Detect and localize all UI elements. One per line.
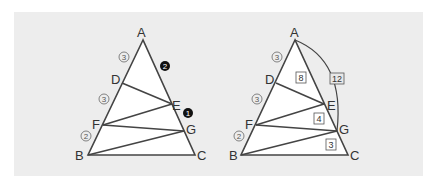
left-label-C: C xyxy=(197,148,206,163)
right-ratio-AD: 3 xyxy=(272,52,282,62)
right-label-E: E xyxy=(327,98,336,113)
right-label-G: G xyxy=(339,122,349,137)
svg-text:8: 8 xyxy=(298,73,303,83)
left-ratio-AD: 3 xyxy=(119,52,129,62)
right-label-C: C xyxy=(350,148,359,163)
right-box-AE: 8 xyxy=(296,72,306,83)
right-label-B: B xyxy=(229,148,238,163)
svg-text:3: 3 xyxy=(122,53,127,62)
right-box-EG: 4 xyxy=(314,113,324,124)
svg-text:3: 3 xyxy=(275,53,280,62)
left-label-F: F xyxy=(92,117,100,132)
right-label-D: D xyxy=(265,72,274,87)
left-ratio-FB: 2 xyxy=(81,131,91,141)
svg-text:3: 3 xyxy=(102,95,107,104)
right-label-A: A xyxy=(290,25,299,40)
left-label-G: G xyxy=(186,122,196,137)
left-ratio-AE: 2 xyxy=(160,61,170,71)
left-ratio-EG: 1 xyxy=(183,108,193,118)
svg-text:1: 1 xyxy=(186,109,191,118)
left-ratio-DF: 3 xyxy=(99,94,109,104)
geometry-diagrams: A B C D E F G 3 3 2 2 1 xyxy=(0,0,436,185)
left-label-A: A xyxy=(137,25,146,40)
svg-text:2: 2 xyxy=(237,132,242,141)
right-label-F: F xyxy=(245,117,253,132)
right-ratio-DF: 3 xyxy=(252,94,262,104)
svg-text:4: 4 xyxy=(316,114,321,124)
right-box-AG: 12 xyxy=(330,73,344,84)
svg-text:2: 2 xyxy=(84,132,89,141)
svg-text:3: 3 xyxy=(255,95,260,104)
left-figure: A B C D E F G 3 3 2 2 1 xyxy=(75,25,206,163)
right-box-GC: 3 xyxy=(326,139,336,150)
left-label-B: B xyxy=(75,148,84,163)
svg-text:2: 2 xyxy=(163,62,168,71)
svg-text:3: 3 xyxy=(328,140,333,150)
right-figure: A B C D E F G 3 3 2 8 4 3 xyxy=(229,25,359,163)
left-label-D: D xyxy=(111,72,120,87)
left-label-E: E xyxy=(172,98,181,113)
svg-text:12: 12 xyxy=(332,74,342,84)
right-ratio-FB: 2 xyxy=(234,131,244,141)
